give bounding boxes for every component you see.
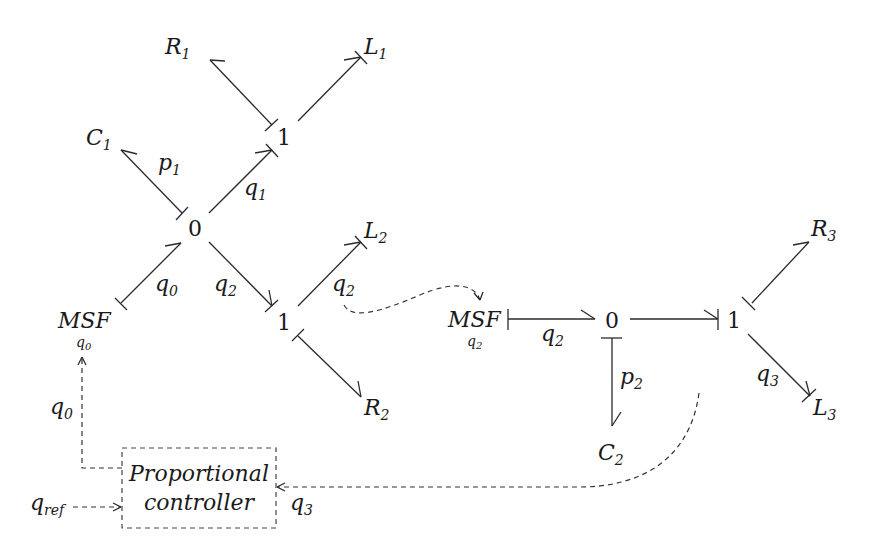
node-C1: C1 bbox=[86, 125, 112, 153]
node-R2: R2 bbox=[363, 395, 390, 423]
node-MSF-right-sub: q2 bbox=[467, 333, 482, 351]
controller-line1: Proportional bbox=[128, 461, 269, 486]
node-C2: C2 bbox=[598, 440, 624, 468]
bond-0right-1right bbox=[630, 309, 718, 330]
label-q3-right: q3 bbox=[756, 361, 779, 389]
signal-qref-to-controller bbox=[73, 503, 121, 511]
signal-q3-to-controller bbox=[277, 393, 699, 491]
proportional-controller-box bbox=[122, 448, 276, 528]
node-zero-left: 0 bbox=[188, 216, 202, 241]
bond-MSF-0 bbox=[115, 243, 181, 310]
bond-1top-R1 bbox=[210, 60, 278, 131]
controller-line2: controller bbox=[144, 490, 255, 515]
node-MSF-right: MSF bbox=[447, 307, 502, 332]
bond-graph-diagram: R1 L1 1 C1 0 L2 MSF q0 1 R2 MSF q2 0 1 R… bbox=[0, 0, 885, 557]
bond-0right-C2 bbox=[601, 338, 622, 426]
label-p2: p2 bbox=[620, 364, 643, 392]
bond-1mid-R2 bbox=[292, 329, 361, 397]
node-MSF-left-sub: q0 bbox=[76, 334, 92, 352]
label-p1: p1 bbox=[158, 150, 181, 178]
signal-controller-to-MSF bbox=[78, 357, 122, 468]
node-one-top: 1 bbox=[277, 125, 291, 150]
label-q2-left: q2 bbox=[214, 271, 237, 299]
label-qref: qref bbox=[30, 490, 67, 518]
bond-1right-R3 bbox=[742, 242, 809, 310]
label-q3-signal: q3 bbox=[290, 490, 313, 518]
node-one-mid: 1 bbox=[277, 310, 291, 335]
bond-1top-L1 bbox=[298, 51, 367, 121]
node-R1: R1 bbox=[164, 34, 191, 62]
node-L1: L1 bbox=[363, 34, 388, 62]
label-q2-mid: q2 bbox=[332, 271, 355, 299]
node-L2: L2 bbox=[363, 218, 388, 246]
node-L3: L3 bbox=[812, 395, 837, 423]
label-q1: q1 bbox=[244, 175, 267, 203]
node-one-right: 1 bbox=[727, 308, 741, 333]
bond-0-C1 bbox=[121, 150, 188, 220]
label-q0-signal: q0 bbox=[50, 394, 73, 422]
node-R3: R3 bbox=[810, 216, 837, 244]
label-q2-right: q2 bbox=[541, 321, 564, 349]
label-q0: q0 bbox=[155, 271, 178, 299]
node-MSF-left: MSF bbox=[57, 308, 112, 333]
node-zero-right: 0 bbox=[605, 308, 619, 333]
